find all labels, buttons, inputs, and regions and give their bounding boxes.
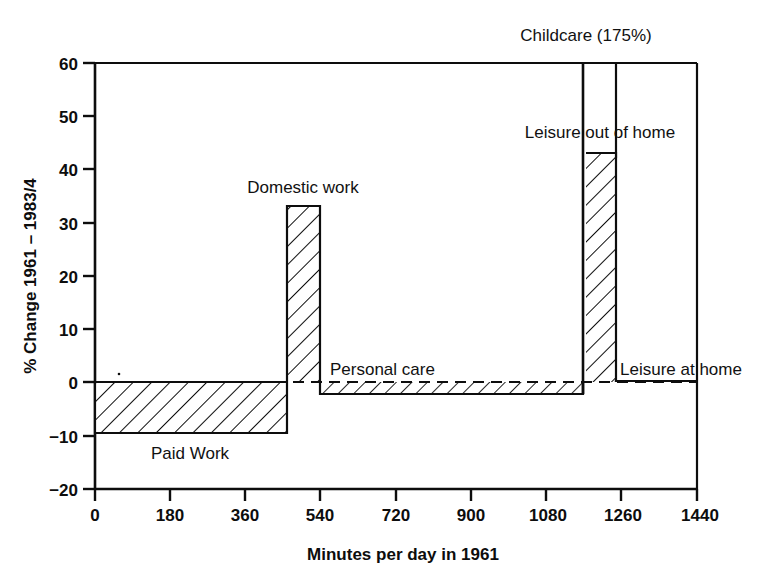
bar-paid-work[interactable] <box>95 382 287 433</box>
figure-canvas: 60 50 40 30 20 10 0 −10 −20 0 180 360 <box>0 0 782 582</box>
bar-personal-care-fill <box>320 382 583 394</box>
y-tick-labels: 60 50 40 30 20 10 0 −10 −20 <box>49 55 78 500</box>
x-tick-label-720: 720 <box>382 506 410 525</box>
bar-chart: 60 50 40 30 20 10 0 −10 −20 0 180 360 <box>0 0 782 582</box>
y-tick-label-neg10: −10 <box>49 428 78 447</box>
bar-domestic-work[interactable] <box>287 206 320 382</box>
x-axis-title: Minutes per day in 1961 <box>307 545 499 564</box>
x-tick-label-180: 180 <box>156 506 184 525</box>
x-tick-label-360: 360 <box>231 506 259 525</box>
y-tick-label-20: 20 <box>59 268 78 287</box>
x-tick-label-0: 0 <box>90 506 99 525</box>
y-tick-label-50: 50 <box>59 108 78 127</box>
y-tick-label-60: 60 <box>59 55 78 74</box>
bar-label-paid-work: Paid Work <box>151 444 230 463</box>
y-axis-title: % Change 1961 – 1983/4 <box>21 178 40 374</box>
bar-label-leisure-at-home: Leisure at home <box>620 360 742 379</box>
y-tick-label-40: 40 <box>59 161 78 180</box>
bar-paid-work-fill <box>95 382 287 433</box>
y-tick-label-10: 10 <box>59 321 78 340</box>
bar-domestic-work-fill <box>287 206 320 382</box>
bar-leisure-out-of-home-fill <box>586 153 616 382</box>
x-tick-label-900: 900 <box>457 506 485 525</box>
bar-label-childcare: Childcare (175%) <box>520 26 651 45</box>
scan-artifact-dot <box>118 373 121 376</box>
bar-label-leisure-out-of-home: Leisure out of home <box>525 123 675 142</box>
x-tick-labels: 0 180 360 540 720 900 1080 1260 1440 <box>90 506 719 525</box>
x-tick-label-1260: 1260 <box>604 506 642 525</box>
x-tick-label-1440: 1440 <box>681 506 719 525</box>
x-tick-label-540: 540 <box>306 506 334 525</box>
bar-label-domestic-work: Domestic work <box>247 178 359 197</box>
x-axis-ticks <box>95 489 697 501</box>
y-tick-label-0: 0 <box>69 374 78 393</box>
bar-label-personal-care: Personal care <box>330 360 435 379</box>
y-tick-label-30: 30 <box>59 215 78 234</box>
y-axis-ticks <box>83 63 95 489</box>
x-tick-label-1080: 1080 <box>529 506 567 525</box>
bar-personal-care[interactable] <box>320 382 583 394</box>
bar-leisure-out-of-home[interactable] <box>583 153 616 394</box>
y-tick-label-neg20: −20 <box>49 481 78 500</box>
